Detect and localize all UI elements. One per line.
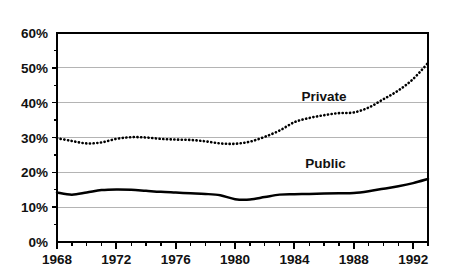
x-axis-label: 1992: [398, 252, 428, 267]
x-axis-label: 1972: [101, 252, 131, 267]
line-chart: 0%10%20%30%40%50%60% 1968197219761980198…: [0, 0, 452, 278]
x-axis-label: 1988: [339, 252, 370, 267]
y-axis-label: 60%: [21, 26, 48, 41]
x-axis-label: 1984: [279, 252, 310, 267]
y-axis-label: 10%: [21, 200, 48, 215]
series-annotation-private: Private: [302, 89, 348, 104]
x-axis-label: 1968: [42, 252, 73, 267]
series-line-private: [57, 63, 428, 144]
y-axis-label: 40%: [21, 96, 48, 111]
y-axis-tick-labels: 0%10%20%30%40%50%60%: [21, 26, 48, 250]
y-axis-label: 0%: [28, 235, 48, 250]
gridlines: [57, 68, 428, 207]
y-axis-label: 20%: [21, 165, 48, 180]
x-axis-label: 1980: [220, 252, 250, 267]
data-series: [57, 63, 428, 200]
y-axis-label: 50%: [21, 61, 48, 76]
series-annotations: PrivatePublic: [302, 89, 348, 171]
series-line-public: [57, 179, 428, 200]
chart-container: 0%10%20%30%40%50%60% 1968197219761980198…: [0, 0, 452, 278]
x-axis-tick-labels: 1968197219761980198419881992: [42, 252, 428, 267]
y-axis-label: 30%: [21, 131, 48, 146]
series-annotation-public: Public: [305, 156, 346, 171]
x-axis-ticks: [52, 50, 428, 249]
x-axis-label: 1976: [161, 252, 192, 267]
